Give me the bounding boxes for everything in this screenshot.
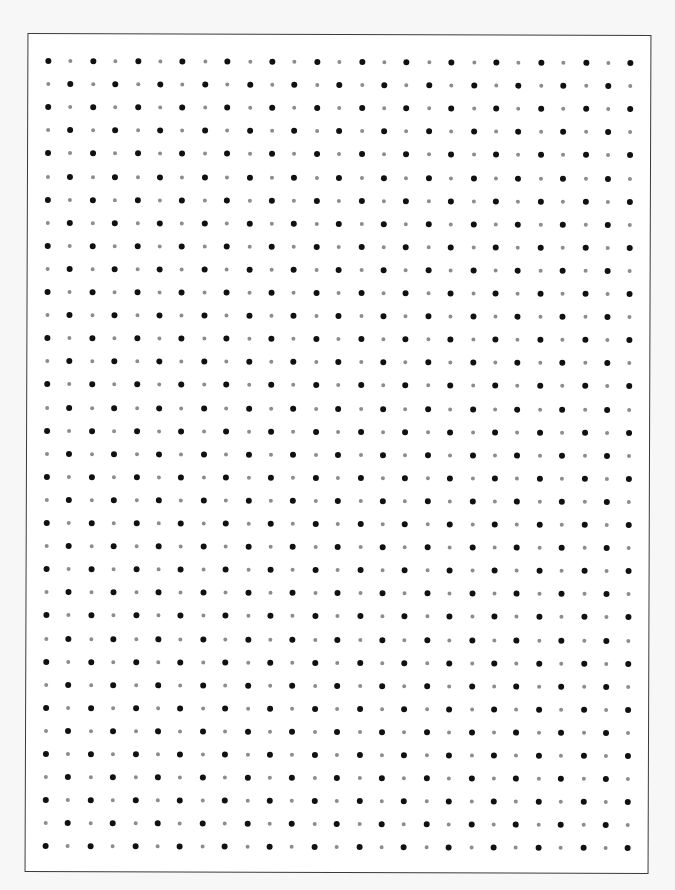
- light-dot: [493, 315, 497, 319]
- dark-dot: [581, 522, 587, 528]
- dark-dot: [537, 522, 543, 528]
- light-dot: [629, 84, 633, 88]
- light-dot: [113, 198, 117, 202]
- light-dot: [581, 777, 585, 781]
- light-dot: [66, 798, 70, 802]
- dark-dot: [379, 821, 385, 827]
- dark-dot: [515, 221, 521, 227]
- light-dot: [380, 661, 384, 665]
- light-dot: [471, 476, 475, 480]
- dark-dot: [582, 383, 588, 389]
- light-dot: [200, 845, 204, 849]
- dark-dot: [312, 660, 318, 666]
- light-dot: [539, 176, 543, 180]
- light-dot: [494, 84, 498, 88]
- dark-dot: [111, 359, 117, 365]
- light-dot: [514, 846, 518, 850]
- dark-dot: [491, 614, 497, 620]
- light-dot: [561, 199, 565, 203]
- light-dot: [156, 845, 160, 849]
- light-dot: [359, 453, 363, 457]
- light-dot: [626, 777, 630, 781]
- dark-dot: [335, 498, 341, 504]
- dark-dot: [603, 776, 609, 782]
- dark-dot: [380, 452, 386, 458]
- dark-dot: [626, 614, 632, 620]
- light-dot: [335, 845, 339, 849]
- dark-dot: [111, 590, 117, 596]
- light-dot: [337, 337, 341, 341]
- light-dot: [203, 152, 207, 156]
- dark-dot: [381, 175, 387, 181]
- light-dot: [335, 707, 339, 711]
- dark-dot: [493, 152, 499, 158]
- dark-dot: [536, 753, 542, 759]
- dark-dot: [179, 151, 185, 157]
- dark-dot: [471, 83, 477, 89]
- light-dot: [560, 430, 564, 434]
- light-dot: [135, 406, 139, 410]
- dark-dot: [202, 82, 208, 88]
- dark-dot: [627, 199, 633, 205]
- light-dot: [90, 313, 94, 317]
- dark-dot: [403, 383, 409, 389]
- dark-dot: [380, 498, 386, 504]
- dark-dot: [314, 244, 320, 250]
- dark-dot: [336, 82, 342, 88]
- light-dot: [134, 683, 138, 687]
- dark-dot: [583, 60, 589, 66]
- dark-dot: [289, 821, 295, 827]
- light-dot: [493, 453, 497, 457]
- light-dot: [91, 221, 95, 225]
- light-dot: [516, 292, 520, 296]
- dark-dot: [603, 684, 609, 690]
- light-dot: [537, 546, 541, 550]
- dark-dot: [180, 105, 186, 111]
- dark-dot: [88, 566, 94, 572]
- light-dot: [313, 730, 317, 734]
- light-dot: [134, 637, 138, 641]
- dark-dot: [179, 336, 185, 342]
- dark-dot: [224, 290, 230, 296]
- light-dot: [514, 800, 518, 804]
- dark-dot: [246, 405, 252, 411]
- light-dot: [426, 522, 430, 526]
- dark-dot: [603, 591, 609, 597]
- light-dot: [492, 730, 496, 734]
- light-dot: [424, 846, 428, 850]
- dark-dot: [625, 845, 631, 851]
- light-dot: [248, 106, 252, 110]
- dark-dot: [426, 221, 432, 227]
- dark-dot: [89, 474, 95, 480]
- dark-dot: [604, 314, 610, 320]
- light-dot: [515, 523, 519, 527]
- dark-dot: [604, 545, 610, 551]
- light-dot: [268, 683, 272, 687]
- light-dot: [134, 591, 138, 595]
- light-dot: [45, 405, 49, 409]
- light-dot: [425, 568, 429, 572]
- dark-dot: [447, 521, 453, 527]
- dark-dot: [134, 243, 140, 249]
- light-dot: [382, 60, 386, 64]
- dark-dot: [515, 268, 521, 274]
- light-dot: [158, 198, 162, 202]
- dark-dot: [110, 774, 116, 780]
- dark-dot: [134, 289, 140, 295]
- dark-dot: [402, 521, 408, 527]
- dark-dot: [201, 451, 207, 457]
- dark-dot: [582, 291, 588, 297]
- dark-dot: [133, 474, 139, 480]
- dark-dot: [560, 221, 566, 227]
- dark-dot: [604, 360, 610, 366]
- light-dot: [628, 177, 632, 181]
- light-dot: [336, 383, 340, 387]
- dark-dot: [401, 752, 407, 758]
- light-dot: [246, 614, 250, 618]
- dark-dot: [246, 267, 252, 273]
- light-dot: [113, 244, 117, 248]
- dark-dot: [180, 58, 186, 64]
- light-dot: [180, 221, 184, 225]
- dark-dot: [469, 637, 475, 643]
- dark-dot: [157, 128, 163, 134]
